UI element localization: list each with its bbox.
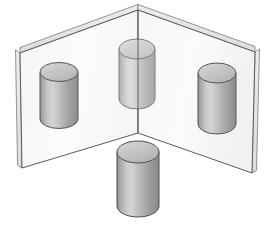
cylinder-bottom-front [117,141,159,217]
cylinder-bottom-front-top-cap [117,141,159,163]
cylinder-top-center-top-cap [119,39,155,59]
cylinder-left-top-cap [40,63,78,82]
cylinder-top-center [119,39,155,109]
cylinder-right-top-cap [198,63,236,83]
cylinder-left [40,63,78,129]
figure-container [0,0,266,225]
cylinders-on-planes-figure [0,0,266,225]
cylinder-right [198,63,236,134]
